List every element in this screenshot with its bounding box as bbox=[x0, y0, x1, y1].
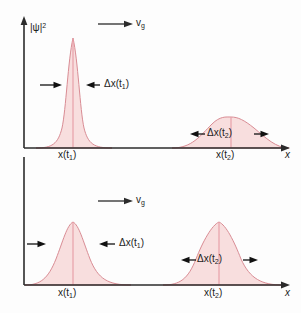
packet-t1-area bbox=[25, 222, 131, 285]
delta-x-t2-right-arrowhead bbox=[250, 257, 259, 263]
y-axis-arrowhead bbox=[21, 16, 28, 25]
x-tick-label-t2: x(t2) bbox=[204, 288, 222, 299]
delta-x-t2-label: Δx(t2) bbox=[197, 254, 222, 265]
delta-x-t1-left-arrowhead bbox=[54, 82, 63, 88]
group-velocity-arrowhead bbox=[124, 21, 133, 27]
panel-bottom-plot bbox=[0, 155, 301, 313]
delta-x-t2-right-arrowhead bbox=[261, 131, 270, 137]
delta-x-t1-label: Δx(t1) bbox=[104, 79, 129, 90]
delta-x-t1-right-arrowhead bbox=[99, 241, 108, 247]
y-axis-label: |ψ|2 bbox=[30, 22, 46, 33]
wave-packet-figure: |ψ|2 vg Δx(t1) Δx(t2) x(t1) x(t2) x bbox=[0, 0, 301, 313]
x-tick-label-t1: x(t1) bbox=[58, 288, 76, 299]
delta-x-t1-label: Δx(t1) bbox=[119, 238, 144, 249]
delta-x-t2-left-arrowhead bbox=[181, 257, 190, 263]
delta-x-t1-left-arrowhead bbox=[38, 241, 47, 247]
panel-top: |ψ|2 vg Δx(t1) Δx(t2) x(t1) x(t2) x bbox=[0, 0, 301, 160]
packet-t2-area bbox=[163, 222, 283, 285]
delta-x-t2-label: Δx(t2) bbox=[207, 128, 232, 139]
delta-x-t1-right-arrowhead bbox=[86, 82, 95, 88]
delta-x-t2-left-arrowhead bbox=[190, 131, 199, 137]
group-velocity-label: vg bbox=[136, 195, 145, 206]
group-velocity-label: vg bbox=[136, 18, 145, 29]
group-velocity-arrowhead bbox=[124, 198, 133, 204]
x-axis-label: x bbox=[285, 288, 290, 298]
panel-bottom: vg Δx(t1) Δx(t2) x(t1) x(t2) x bbox=[0, 155, 301, 313]
packet-t1-area bbox=[36, 38, 112, 148]
